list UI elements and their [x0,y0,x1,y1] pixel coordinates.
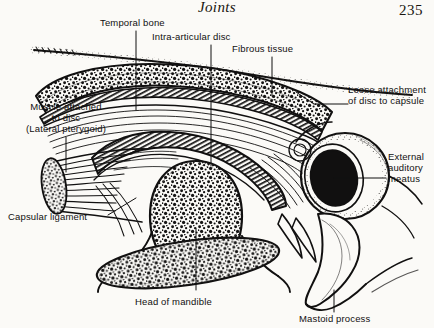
label-head-of-mandible: Head of mandible [135,296,212,307]
label-temporal-bone: Temporal bone [100,17,165,28]
label-capsular-ligament: Capsular ligament [8,211,87,222]
label-external-auditory-meatus: External auditory meatus [388,151,424,185]
label-loose-attachment-line2: of disc to capsule [348,95,426,106]
label-loose-attachment-line1: Loose attachment [348,84,426,95]
label-loose-attachment: Loose attachment of disc to capsule [348,84,426,106]
tmj-illustration [0,0,434,328]
label-eam-line2: auditory [388,162,424,173]
label-mastoid-process: Mastoid process [299,313,370,324]
label-muscle-attached-to-disc: Muscle attached to disc (Lateral pterygo… [2,101,130,135]
label-muscle-line3: (Lateral pterygoid) [2,123,130,134]
label-muscle-line1: Muscle attached [2,101,130,112]
textbook-page: Joints 235 [0,0,434,328]
label-muscle-line2: to disc [2,112,130,123]
label-eam-line3: meatus [388,173,424,184]
label-eam-line1: External [388,151,424,162]
label-intra-articular-disc: Intra-articular disc [152,31,231,42]
leader-capsular-ligament [108,198,136,215]
label-fibrous-tissue: Fibrous tissue [232,43,293,54]
